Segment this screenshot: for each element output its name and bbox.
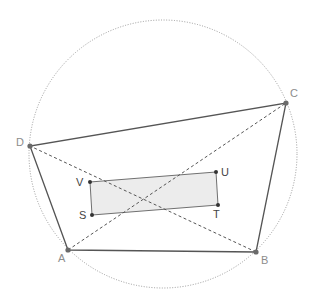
label-a: A [58,252,66,264]
point-d [27,143,32,148]
geometry-diagram: ABCDVSUT [0,0,317,306]
label-d: D [16,136,24,148]
point-b [253,249,258,254]
point-a [65,247,70,252]
point-s [90,213,94,217]
label-b: B [261,254,268,266]
point-c [283,100,288,105]
label-t: T [213,208,220,220]
label-s: S [79,209,86,221]
label-u: U [221,166,229,178]
point-u [214,170,218,174]
point-t [216,203,220,207]
label-c: C [290,87,298,99]
inner-rectangle-vutS [90,172,218,215]
label-v: V [76,176,84,188]
point-v [88,180,92,184]
